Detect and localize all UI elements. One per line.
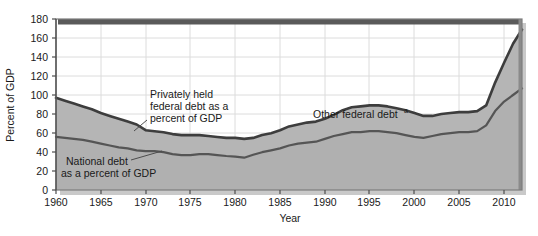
y-tick-label: 0	[42, 184, 48, 196]
x-tick-label: 1960	[44, 196, 68, 208]
x-tick-label: 2010	[492, 196, 516, 208]
annotation-other-federal-debt: Other federal debt a	[313, 107, 408, 120]
x-tick-label: 1985	[268, 196, 292, 208]
x-tick-label: 1980	[223, 196, 247, 208]
annotation-label: Other federal debt	[313, 108, 398, 120]
annotation-line: percent of GDP	[150, 112, 222, 124]
x-tick-label: 1995	[357, 196, 381, 208]
x-tick-label: 1990	[313, 196, 337, 208]
y-tick-label: 40	[36, 146, 48, 158]
y-tick-label: 80	[36, 108, 48, 120]
y-tick-label: 60	[36, 127, 48, 139]
x-tick-label: 1975	[178, 196, 202, 208]
x-tick-label: 1965	[89, 196, 113, 208]
annotation-superscript: a	[404, 107, 408, 114]
y-tick-label: 20	[36, 165, 48, 177]
y-tick-label: 100	[30, 89, 48, 101]
x-tick-label: 1970	[134, 196, 158, 208]
x-tick-label: 2000	[402, 196, 426, 208]
annotation-line: Privately held	[150, 88, 213, 100]
annotation-line: as a percent of GDP	[61, 167, 156, 179]
plot-top-bevel	[58, 19, 522, 25]
y-tick-label: 180	[30, 13, 48, 25]
x-axis-title: Year	[279, 212, 301, 224]
y-tick-label: 160	[30, 32, 48, 44]
annotation-line: federal debt as a	[150, 100, 228, 112]
y-tick-label: 120	[30, 70, 48, 82]
y-axis-title: Percent of GDP	[4, 68, 16, 142]
y-tick-label: 140	[30, 51, 48, 63]
debt-percent-of-gdp-area-chart: 180 160 140 120 100 80 60 40 20 0 Percen…	[0, 0, 538, 236]
x-tick-label: 2005	[447, 196, 471, 208]
annotation-line: National debt	[66, 155, 128, 167]
